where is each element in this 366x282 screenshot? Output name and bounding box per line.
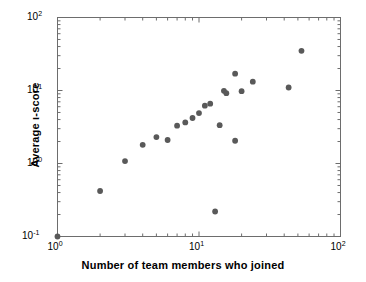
data-point — [190, 115, 196, 121]
x-tick-label: 102 — [331, 241, 346, 252]
y-tick-label: 100 — [27, 157, 42, 168]
data-point — [223, 90, 229, 96]
data-point — [250, 79, 256, 85]
plot-frame — [58, 18, 341, 237]
data-point — [202, 103, 208, 109]
data-point — [212, 209, 218, 215]
data-point — [232, 138, 238, 144]
data-point — [232, 71, 238, 77]
y-tick-label: 10-1 — [22, 230, 39, 241]
x-tick-label: 101 — [189, 241, 204, 252]
data-point — [154, 134, 160, 140]
data-point — [165, 137, 171, 143]
data-point — [239, 88, 245, 94]
data-point — [299, 48, 305, 54]
y-axis-title-wrapper: Average ι-score — [25, 40, 41, 210]
data-points-layer — [55, 48, 305, 240]
x-tick-label: 100 — [48, 241, 63, 252]
data-point — [286, 85, 292, 91]
scatter-plot-figure: Number of team members who joined Averag… — [0, 0, 366, 282]
data-point — [217, 122, 223, 128]
data-point — [174, 123, 180, 129]
data-point — [97, 188, 103, 194]
axis-ticks — [58, 18, 341, 237]
data-point — [182, 120, 188, 126]
y-tick-label: 102 — [27, 11, 42, 22]
data-point — [140, 142, 146, 148]
data-point — [196, 110, 202, 116]
data-point — [122, 158, 128, 164]
y-tick-label: 101 — [27, 84, 42, 95]
x-axis-title: Number of team members who joined — [0, 259, 366, 271]
data-point — [207, 101, 213, 107]
